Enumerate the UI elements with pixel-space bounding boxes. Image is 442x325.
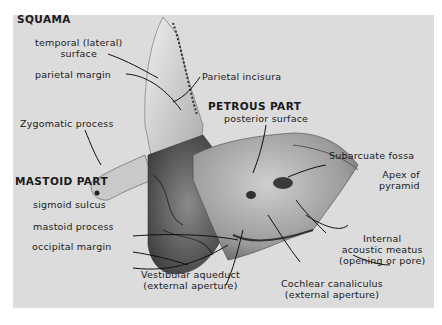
label-vestibular-aqueduct: Vestibular aqueduct (external aperture) bbox=[141, 269, 240, 291]
label-internal-meatus-line3: (opening or pore) bbox=[339, 255, 425, 266]
label-zygomatic-process: Zygomatic process bbox=[20, 118, 114, 129]
label-apex-of-pyramid: Apex of pyramid bbox=[379, 169, 420, 191]
label-subarcuate-fossa: Subarcuate fossa bbox=[329, 150, 414, 161]
label-vestibular-line2: (external aperture) bbox=[141, 280, 240, 291]
label-internal-acoustic-meatus: Internal acoustic meatus (opening or por… bbox=[339, 233, 425, 266]
label-occipital-margin: occipital margin bbox=[32, 241, 111, 252]
label-cochlear-line1: Cochlear canaliculus bbox=[281, 278, 383, 289]
label-apex-line1: Apex of bbox=[379, 169, 420, 180]
section-label-petrous: PETROUS PART bbox=[208, 101, 301, 112]
label-temporal-surface: temporal (lateral) surface bbox=[35, 37, 122, 59]
label-parietal-incisura: Parietal incisura bbox=[202, 71, 281, 82]
label-cochlear-canaliculus: Cochlear canaliculus (external aperture) bbox=[281, 278, 383, 300]
anatomy-plate: SQUAMA temporal (lateral) surface pariet… bbox=[13, 15, 434, 308]
label-cochlear-line2: (external aperture) bbox=[281, 289, 383, 300]
label-mastoid-process: mastoid process bbox=[33, 221, 114, 232]
section-label-mastoid: MASTOID PART bbox=[15, 176, 108, 187]
label-posterior-surface: posterior surface bbox=[224, 113, 308, 124]
label-internal-meatus-line2: acoustic meatus bbox=[339, 244, 425, 255]
label-vestibular-line1: Vestibular aqueduct bbox=[141, 269, 240, 280]
label-sigmoid-sulcus: sigmoid sulcus bbox=[33, 199, 106, 210]
label-apex-line2: pyramid bbox=[379, 180, 420, 191]
label-parietal-margin: parietal margin bbox=[35, 69, 111, 80]
label-temporal-surface-line1: temporal (lateral) bbox=[35, 37, 122, 48]
label-temporal-surface-line2: surface bbox=[35, 48, 122, 59]
label-internal-meatus-line1: Internal bbox=[339, 233, 425, 244]
section-label-squama: SQUAMA bbox=[17, 15, 71, 25]
